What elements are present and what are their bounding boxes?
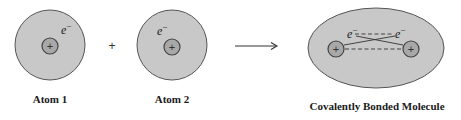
- atom-1-label: Atom 1: [33, 93, 68, 105]
- atom-2: + e− Atom 2: [137, 10, 207, 105]
- molecule-label: Covalently Bonded Molecule: [309, 100, 444, 112]
- atom-2-nucleus-plus: +: [169, 41, 175, 53]
- molecule-nucleus-left-plus: +: [333, 43, 339, 55]
- reaction-arrow-icon: [235, 43, 277, 50]
- atom-1-nucleus-plus: +: [47, 40, 53, 52]
- plus-operator: +: [108, 39, 115, 53]
- atom-1: + e− Atom 1: [15, 10, 85, 105]
- molecule-nucleus-right-plus: +: [408, 43, 414, 55]
- atom-2-label: Atom 2: [155, 93, 190, 105]
- covalent-bond-diagram: + e− Atom 1 + + e− Atom 2 + + e− e− Cova…: [0, 0, 461, 120]
- molecule: + + e− e− Covalently Bonded Molecule: [308, 8, 445, 112]
